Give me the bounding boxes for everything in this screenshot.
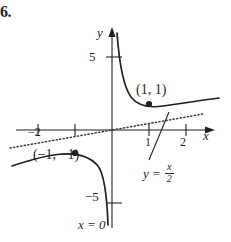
x-tick-label-neg2: −2 bbox=[28, 126, 41, 138]
slant-asymptote-prefix: y = bbox=[143, 167, 161, 180]
curve-right-branch bbox=[117, 33, 219, 107]
item-number: 6. bbox=[0, 4, 11, 20]
x-axis bbox=[16, 126, 215, 133]
y-axis-label: y bbox=[97, 26, 103, 39]
fraction-denominator: 2 bbox=[165, 174, 174, 185]
slant-asymptote-fraction: x 2 bbox=[165, 162, 174, 184]
y-tick-label-5: 5 bbox=[89, 50, 96, 63]
slant-asymptote-label: y = x 2 bbox=[143, 162, 174, 184]
graph-figure: 6. y x 5 −5 1 2 −2 (1, 1) (−1, −1) x = 0… bbox=[0, 0, 231, 242]
vertical-asymptote-label: x = 0 bbox=[78, 218, 106, 231]
point-label-neg1-neg1: (−1, −1) bbox=[33, 148, 79, 162]
slant-asymptote-leader bbox=[149, 112, 169, 160]
y-tick-label-neg5: −5 bbox=[85, 190, 99, 203]
x-tick-label-2: 2 bbox=[180, 136, 186, 148]
x-axis-label: x bbox=[203, 129, 209, 142]
x-tick-label-1: 1 bbox=[145, 136, 151, 148]
graph-canvas bbox=[0, 0, 231, 242]
point-label-1-1: (1, 1) bbox=[136, 83, 166, 97]
fraction-numerator: x bbox=[165, 162, 173, 173]
point-1-1 bbox=[146, 101, 152, 107]
